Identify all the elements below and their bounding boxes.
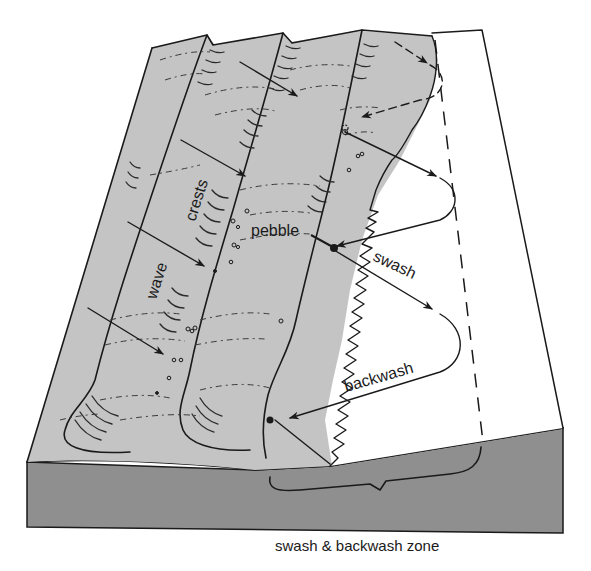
beach-block-diagram: crests wave pebble swash backwash swash … xyxy=(0,0,591,571)
pebble-marker-end xyxy=(267,417,274,424)
label-zone: swash & backwash zone xyxy=(275,537,439,554)
label-pebble: pebble xyxy=(251,222,299,239)
